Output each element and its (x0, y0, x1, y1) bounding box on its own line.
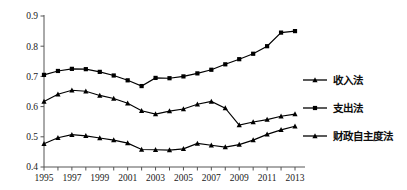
series-2 (41, 87, 297, 127)
data-point-marker (265, 44, 269, 48)
x-axis-tick-label: 2003 (146, 173, 165, 183)
data-point-marker (139, 108, 144, 113)
legend-entry-2[interactable]: 支出法 (303, 102, 364, 114)
y-axis-tick-label: 0.7 (26, 72, 38, 82)
legend-entry-1[interactable]: 收入法 (303, 74, 364, 86)
data-point-marker (56, 69, 60, 73)
data-point-marker (98, 70, 102, 74)
data-point-marker (140, 84, 144, 88)
data-point-marker (167, 76, 171, 80)
x-axis-tick-label: 2011 (258, 173, 277, 183)
data-point-marker (313, 106, 317, 110)
data-point-marker (195, 71, 199, 75)
legend-entry-3[interactable]: 财政自主度法 (303, 130, 394, 142)
data-point-marker (153, 76, 157, 80)
data-point-marker (70, 67, 74, 71)
x-axis-tick-label: 2013 (286, 173, 305, 183)
data-point-marker (292, 123, 297, 128)
x-axis-tick-label: 1995 (35, 173, 54, 183)
y-axis-tick-label: 0.9 (26, 11, 38, 21)
series-line (44, 90, 295, 125)
data-point-marker (279, 31, 283, 35)
data-point-marker (237, 57, 241, 61)
series-3 (41, 123, 297, 152)
legend-label: 财政自主度法 (332, 130, 394, 142)
x-axis-tick-label: 1999 (90, 173, 109, 183)
y-axis-tick-label: 0.8 (26, 42, 38, 52)
legend-label: 收入法 (333, 74, 364, 86)
y-axis-tick-label: 0.4 (26, 162, 38, 172)
x-axis-tick-label: 2007 (202, 173, 221, 183)
x-axis-tick-label: 1997 (62, 173, 81, 183)
data-point-marker (209, 99, 214, 104)
series-line (44, 126, 295, 150)
data-point-marker (84, 67, 88, 71)
data-point-marker (223, 62, 227, 66)
data-point-marker (251, 52, 255, 56)
data-point-marker (126, 78, 130, 82)
data-point-marker (209, 68, 213, 72)
x-axis-tick-label: 2009 (230, 173, 249, 183)
data-point-marker (181, 74, 185, 78)
x-axis-tick-label: 2005 (174, 173, 193, 183)
series-1 (42, 29, 297, 88)
line-chart: 0.40.50.60.70.80.91995199719992001200320… (0, 0, 407, 190)
y-axis-tick-label: 0.6 (26, 102, 38, 112)
chart-figure: 0.40.50.60.70.80.91995199719992001200320… (0, 0, 407, 190)
legend-label: 支出法 (332, 102, 364, 114)
data-point-marker (293, 29, 297, 33)
y-axis-tick-label: 0.5 (26, 132, 38, 142)
x-axis-tick-label: 2001 (118, 173, 137, 183)
data-point-marker (42, 73, 46, 77)
data-point-marker (112, 73, 116, 77)
